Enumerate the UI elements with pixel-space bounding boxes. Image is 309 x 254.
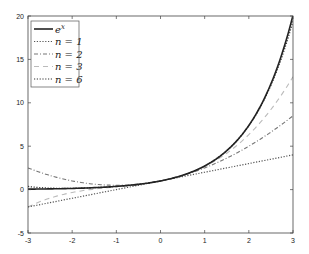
legend-label: n = 3 [55,61,83,72]
series-line-n-2 [28,116,293,185]
y-tick-label: 5 [20,143,24,150]
taylor-series-chart: -3-2-10123-505101520 exn = 1n = 2n = 3n … [0,0,309,254]
x-tick-label: 3 [291,237,295,244]
y-tick-label: 15 [16,56,24,63]
legend-label: n = 2 [55,49,83,60]
x-tick-label: 1 [203,237,207,244]
y-tick-label: 0 [20,186,24,193]
y-tick-label: -5 [18,230,24,237]
y-tick-label: 10 [16,99,24,106]
y-tick-label: 20 [16,13,24,20]
series-line-n-3 [28,77,293,207]
x-tick-label: 2 [247,237,251,244]
legend-label: n = 1 [55,36,83,47]
x-tick-label: 0 [159,237,163,244]
x-tick-label: -3 [25,237,31,244]
legend: exn = 1n = 2n = 3n = 6 [31,21,83,87]
legend-label: n = 6 [55,74,83,85]
x-tick-label: -2 [69,237,75,244]
x-tick-label: -1 [113,237,119,244]
